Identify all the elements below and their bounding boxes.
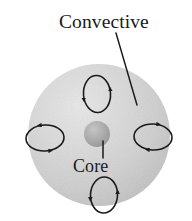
core-circle bbox=[84, 121, 110, 147]
core-label: Core bbox=[73, 157, 108, 175]
convective-label: Convective bbox=[59, 12, 149, 32]
convective-star-figure: Convective Core bbox=[0, 0, 192, 221]
diagram-canvas bbox=[0, 0, 192, 221]
